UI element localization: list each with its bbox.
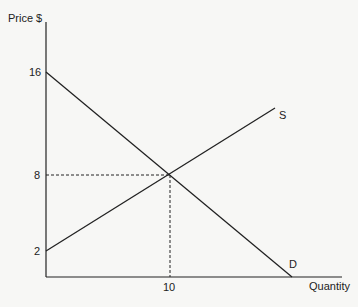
y-axis-label: Price $ [8, 12, 42, 24]
demand-label: D [289, 258, 297, 270]
supply-label: S [279, 109, 286, 121]
y-tick-16: 16 [29, 66, 41, 78]
supply-curve [46, 108, 275, 251]
x-tick-10: 10 [163, 281, 175, 293]
y-tick-8: 8 [34, 169, 40, 181]
x-axis-label: Quantity [309, 280, 350, 292]
y-tick-2: 2 [34, 245, 40, 257]
supply-demand-chart: Price $ Quantity 16 8 2 10 S D [0, 0, 358, 307]
